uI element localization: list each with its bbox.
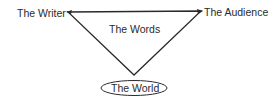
writer-label: The Writer: [17, 7, 66, 19]
audience-label: The Audience: [204, 6, 268, 18]
audience-arrowhead-icon: [197, 9, 203, 14]
words-label: The Words: [109, 23, 160, 35]
triangle-shape: [68, 11, 201, 75]
world-label: The World: [111, 82, 159, 94]
